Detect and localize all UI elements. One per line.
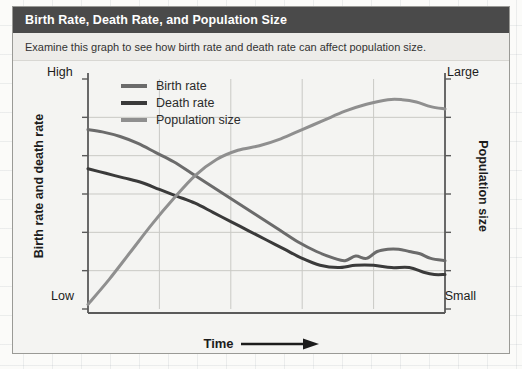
chart-region: Birth rate and death rate Population siz…	[13, 61, 509, 353]
figure-title: Birth Rate, Death Rate, and Population S…	[25, 13, 287, 27]
data-series	[88, 99, 445, 304]
figure-subtitle: Examine this graph to see how birth rate…	[25, 41, 426, 53]
legend-item-death-rate: Death rate	[121, 94, 241, 111]
x-axis-title: Time	[203, 336, 233, 351]
legend-label: Population size	[156, 113, 241, 127]
plot-canvas	[13, 61, 509, 353]
legend-item-birth-rate: Birth rate	[121, 77, 241, 94]
legend-swatch-icon	[121, 84, 147, 88]
y-axis-left-tick-low: Low	[51, 289, 74, 303]
x-axis-label-block: Time	[13, 336, 509, 351]
legend-swatch-icon	[121, 101, 147, 105]
legend-item-population-size: Population size	[121, 111, 241, 128]
figure-title-bar: Birth Rate, Death Rate, and Population S…	[13, 7, 509, 33]
y-axis-right-tick-small: Small	[445, 289, 476, 303]
legend-label: Death rate	[156, 96, 214, 110]
legend-swatch-icon	[121, 118, 147, 122]
series-line-population-size	[88, 99, 445, 304]
y-axis-left-title: Birth rate and death rate	[32, 96, 46, 276]
time-arrow-icon	[241, 338, 319, 350]
y-axis-right-tick-large: Large	[447, 65, 479, 79]
chart-legend: Birth rateDeath ratePopulation size	[121, 77, 241, 128]
figure-card: Birth Rate, Death Rate, and Population S…	[12, 6, 510, 354]
legend-label: Birth rate	[156, 79, 207, 93]
y-axis-right-title: Population size	[476, 96, 490, 276]
figure-subtitle-band: Examine this graph to see how birth rate…	[13, 33, 509, 61]
y-axis-left-tick-high: High	[47, 65, 73, 79]
